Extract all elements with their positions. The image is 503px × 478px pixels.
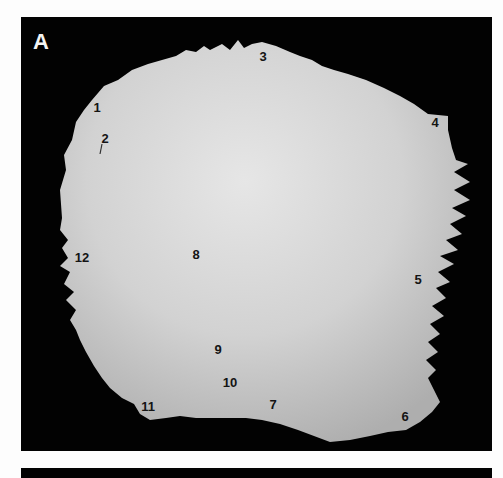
bone-outline (60, 40, 470, 442)
landmark-label-11: 11 (141, 400, 155, 413)
landmark-label-3: 3 (259, 50, 266, 63)
landmark-label-4: 4 (431, 116, 438, 129)
landmark-label-9: 9 (214, 343, 221, 356)
landmark-label-12: 12 (75, 251, 89, 264)
landmark-label-2: 2 (101, 132, 108, 145)
landmark-label-8: 8 (192, 248, 199, 261)
landmark-label-7: 7 (269, 398, 276, 411)
landmark-label-1: 1 (93, 101, 100, 114)
landmark-label-6: 6 (401, 410, 408, 423)
panel-label: A (33, 31, 49, 53)
landmark-label-10: 10 (223, 376, 237, 389)
landmark-label-5: 5 (414, 273, 421, 286)
